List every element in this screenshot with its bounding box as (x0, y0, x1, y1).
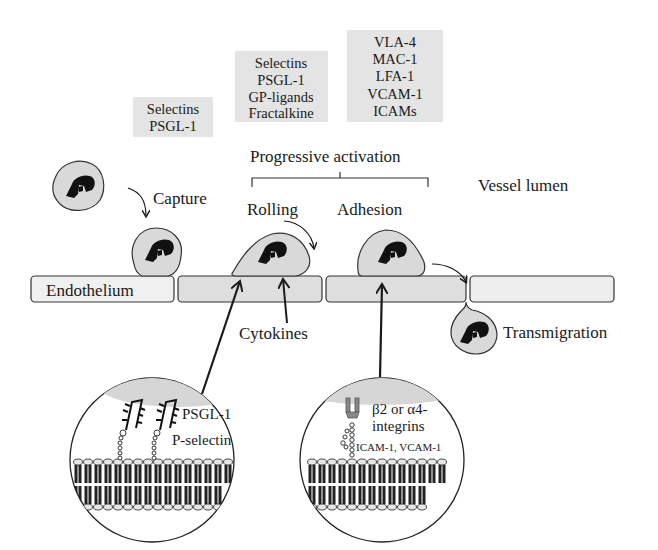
inset-label-p-selectin: P-selectin (172, 432, 232, 448)
molecule-box-rolling: Selectins PSGL-1 GP-ligands Fractalkine (235, 51, 328, 122)
stage-label-transmigration: Transmigration (503, 323, 608, 342)
molecule-label: PSGL-1 (149, 118, 197, 134)
molecule-label: LFA-1 (376, 68, 414, 84)
inset-selectin: PSGL-1 P-selectin (70, 363, 258, 542)
inset-integrin: β2 or α4- integrins ICAM-1, VCAM-1 (280, 361, 480, 542)
stage-label-capture: Capture (153, 189, 207, 208)
endothelium-label: Endothelium (46, 281, 134, 300)
molecule-box-adhesion: VLA-4 MAC-1 LFA-1 VCAM-1 ICAMs (347, 30, 443, 122)
molecule-label: GP-ligands (248, 89, 314, 105)
molecule-label: PSGL-1 (257, 72, 305, 88)
leukocyte-cascade-diagram: Selectins PSGL-1 Selectins PSGL-1 GP-lig… (0, 0, 658, 550)
leukocyte-free (53, 161, 104, 210)
bracket (252, 172, 428, 187)
leukocyte-transmigrating (451, 302, 497, 354)
inset-label-integrins-line2: integrins (372, 418, 425, 434)
molecule-label: VLA-4 (374, 34, 417, 50)
molecule-box-capture: Selectins PSGL-1 (133, 97, 213, 137)
molecule-label: ICAMs (373, 103, 417, 119)
leukocyte-adhered (358, 230, 425, 276)
inset-label-psgl1: PSGL-1 (182, 406, 231, 422)
inset-label-integrins-line1: β2 or α4- (372, 401, 427, 417)
leukocyte-captured (132, 228, 181, 276)
molecule-label: Selectins (255, 55, 308, 71)
molecule-label: VCAM-1 (367, 86, 423, 102)
molecule-label: MAC-1 (372, 51, 417, 67)
leukocyte-rolling (232, 233, 310, 276)
progressive-activation-label: Progressive activation (250, 147, 401, 166)
molecule-label: Fractalkine (248, 105, 313, 121)
molecule-label: Selectins (147, 101, 200, 117)
endothelium: Endothelium (31, 276, 614, 302)
inset-label-icam: ICAM-1, VCAM-1 (356, 441, 441, 453)
stage-label-adhesion: Adhesion (337, 200, 403, 219)
vessel-lumen-label: Vessel lumen (478, 176, 569, 195)
capture-arrow (128, 188, 146, 216)
cytokines-label: Cytokines (239, 324, 308, 343)
stage-label-rolling: Rolling (247, 200, 299, 219)
